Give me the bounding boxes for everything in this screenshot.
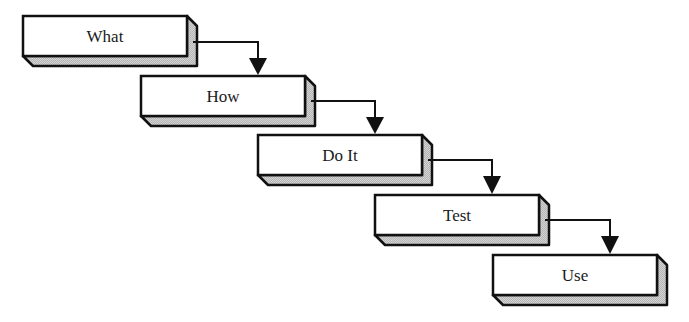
step-label: Do It	[322, 146, 358, 165]
arrow-how-to-do-it	[311, 101, 384, 134]
arrowhead-icon	[601, 236, 619, 254]
arrowhead-icon	[249, 58, 267, 75]
step-box-how: How	[141, 76, 315, 126]
step-box-what: What	[23, 16, 197, 66]
arrowhead-icon	[483, 176, 501, 194]
step-box-do-it: Do It	[258, 135, 432, 185]
step-label: Test	[443, 206, 471, 225]
step-label: What	[87, 27, 124, 46]
arrow-what-to-how	[193, 42, 267, 75]
step-box-test: Test	[375, 195, 549, 245]
waterfall-diagram: What How Do It Test Use	[0, 0, 689, 322]
step-box-use: Use	[493, 255, 667, 305]
arrow-do-it-to-test	[428, 160, 501, 194]
arrowhead-icon	[366, 117, 384, 134]
step-label: How	[206, 87, 240, 106]
step-label: Use	[562, 266, 588, 285]
arrow-test-to-use	[545, 220, 619, 254]
